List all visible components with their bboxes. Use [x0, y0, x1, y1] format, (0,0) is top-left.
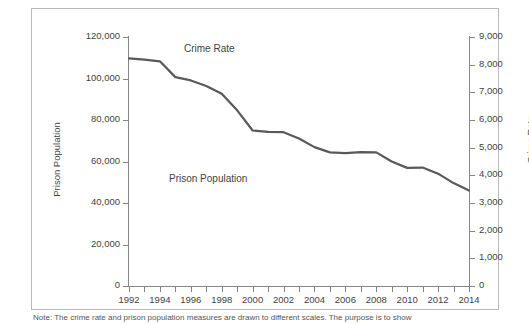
y-axis-right-tick-label: 0: [479, 280, 529, 290]
x-axis-tick-mark: [314, 287, 315, 292]
y-axis-right-tick-mark: [470, 258, 475, 259]
y-axis-right-tick-label: 5,000: [479, 142, 529, 152]
y-axis-left-tick-label: 80,000: [64, 114, 120, 124]
series-line-crime-rate: [129, 58, 469, 190]
y-axis-left-tick-mark: [123, 203, 128, 204]
x-axis-tick-mark: [129, 287, 130, 292]
x-axis-tick-mark: [423, 287, 424, 292]
x-axis-tick-mark: [160, 287, 161, 292]
chart-frame: Prison Population Crime Rate 120,000100,…: [31, 8, 499, 310]
y-axis-left-tick-mark: [123, 79, 128, 80]
x-axis-tick-mark: [253, 287, 254, 292]
x-axis-tick-mark: [299, 287, 300, 292]
x-axis-tick-mark: [376, 287, 377, 292]
y-axis-right-tick-mark: [470, 148, 475, 149]
x-axis-tick-mark: [237, 287, 238, 292]
y-axis-right-tick-label: 8,000: [479, 59, 529, 69]
y-axis-left-tick-mark: [123, 162, 128, 163]
y-axis-left-tick-label: 40,000: [64, 197, 120, 207]
y-axis-left-tick-mark: [123, 37, 128, 38]
plot-area: [129, 37, 469, 286]
y-axis-right-tick-mark: [470, 120, 475, 121]
x-axis-tick-mark: [206, 287, 207, 292]
y-axis-left-title: Prison Population: [51, 110, 62, 210]
chart-footnote: Note: The crime rate and prison populati…: [33, 313, 529, 323]
y-axis-right-tick-mark: [470, 175, 475, 176]
y-axis-right-tick-mark: [470, 92, 475, 93]
y-axis-right-tick-mark: [470, 37, 475, 38]
x-axis-tick-mark: [454, 287, 455, 292]
y-axis-right-tick-mark: [470, 231, 475, 232]
x-axis-tick-mark: [330, 287, 331, 292]
y-axis-right-tick-mark: [470, 203, 475, 204]
y-axis-right-tick-label: 4,000: [479, 169, 529, 179]
x-axis-tick-mark: [392, 287, 393, 292]
x-axis-tick-mark: [144, 287, 145, 292]
y-axis-right-tick-mark: [470, 286, 475, 287]
y-axis-right-tick-label: 2,000: [479, 225, 529, 235]
y-axis-left-tick-label: 60,000: [64, 156, 120, 166]
x-axis-tick-mark: [268, 287, 269, 292]
y-axis-left-tick-label: 0: [64, 280, 120, 290]
y-axis-right-line: [469, 36, 470, 287]
y-axis-left-tick-mark: [123, 120, 128, 121]
x-axis-tick-mark: [175, 287, 176, 292]
x-axis-tick-mark: [361, 287, 362, 292]
x-axis-tick-label: 2014: [449, 295, 489, 305]
y-axis-left-tick-mark: [123, 245, 128, 246]
x-axis-tick-mark: [438, 287, 439, 292]
y-axis-left-tick-label: 20,000: [64, 239, 120, 249]
x-axis-tick-mark: [191, 287, 192, 292]
y-axis-left-tick-mark: [123, 286, 128, 287]
x-axis-tick-mark: [345, 287, 346, 292]
chart-screenshot: Prison Population Crime Rate 120,000100,…: [0, 0, 529, 324]
x-axis-tick-mark: [407, 287, 408, 292]
series-label-crime-rate: Crime Rate: [184, 43, 235, 54]
crime-rate-line-series: [129, 37, 469, 286]
y-axis-right-tick-label: 3,000: [479, 197, 529, 207]
x-axis-tick-mark: [284, 287, 285, 292]
series-label-prison-population: Prison Population: [169, 173, 247, 184]
y-axis-right-tick-label: 7,000: [479, 86, 529, 96]
y-axis-right-tick-label: 1,000: [479, 252, 529, 262]
x-axis-tick-mark: [222, 287, 223, 292]
y-axis-right-tick-mark: [470, 65, 475, 66]
y-axis-right-tick-label: 9,000: [479, 31, 529, 41]
x-axis-tick-mark: [469, 287, 470, 292]
y-axis-right-tick-label: 6,000: [479, 114, 529, 124]
y-axis-left-tick-label: 120,000: [64, 31, 120, 41]
y-axis-left-tick-label: 100,000: [64, 73, 120, 83]
